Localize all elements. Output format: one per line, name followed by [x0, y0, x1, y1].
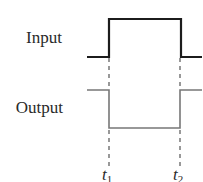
t2-label: t2: [173, 166, 183, 182]
output-waveform: [87, 90, 202, 128]
output-label: Output: [0, 99, 63, 116]
input-label: Input: [0, 29, 62, 46]
input-waveform: [87, 19, 202, 57]
t1-label: t1: [102, 166, 112, 182]
t1-label-subscript: 1: [107, 173, 113, 182]
t2-label-subscript: 2: [178, 173, 184, 182]
